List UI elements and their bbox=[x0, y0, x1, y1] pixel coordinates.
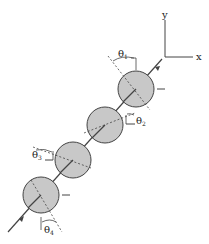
theta-4-label: θ4 bbox=[44, 224, 54, 236]
theta-3-label: θ3 bbox=[32, 149, 42, 161]
theta-2-label: θ2 bbox=[136, 115, 146, 127]
theta-1-label: θ1 bbox=[118, 48, 128, 60]
coordinate-axes: y x bbox=[161, 9, 202, 62]
disk-2 bbox=[84, 107, 135, 143]
y-axis-label: y bbox=[161, 9, 168, 20]
disk-1 bbox=[108, 56, 165, 110]
x-axis-label: x bbox=[196, 51, 202, 62]
multi-disk-shaft-diagram: y x θ1 θ2 θ3 bbox=[0, 0, 209, 244]
